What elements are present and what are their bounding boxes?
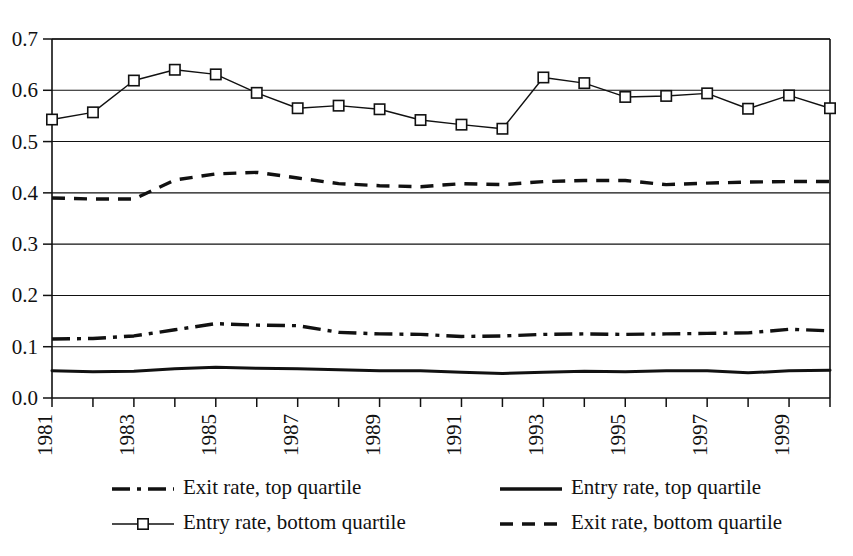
data-point-marker [292, 103, 302, 113]
y-tick-label: 0.7 [12, 27, 38, 51]
data-point-marker [743, 104, 753, 114]
data-point-marker [47, 114, 57, 124]
data-point-marker [333, 100, 343, 110]
data-point-marker [415, 115, 425, 125]
y-tick-label: 0.3 [12, 232, 38, 256]
data-point-marker [784, 90, 794, 100]
x-tick-label: 1995 [606, 414, 630, 456]
data-point-marker [374, 104, 384, 114]
x-tick-label: 1981 [33, 414, 57, 456]
data-point-marker [702, 88, 712, 98]
data-point-marker [129, 75, 139, 85]
y-tick-label: 0.6 [12, 78, 38, 102]
legend-label: Entry rate, top quartile [571, 475, 761, 499]
legend-swatch-marker [138, 519, 148, 529]
x-tick-label: 1997 [688, 414, 712, 456]
chart-container: 0.00.10.20.30.40.50.60.7 198119831985198… [0, 0, 853, 556]
data-point-marker [825, 103, 835, 113]
data-point-marker [579, 78, 589, 88]
data-point-marker [497, 124, 507, 134]
x-tick-label: 1993 [524, 414, 548, 456]
x-tick-label: 1987 [279, 414, 303, 456]
x-tick-label: 1991 [442, 414, 466, 456]
data-point-marker [620, 92, 630, 102]
data-point-marker [538, 72, 548, 82]
data-point-marker [170, 65, 180, 75]
x-tick-label: 1985 [197, 414, 221, 456]
data-point-marker [252, 88, 262, 98]
x-tick-label: 1989 [361, 414, 385, 456]
legend-label: Exit rate, top quartile [183, 475, 361, 499]
legend-label: Exit rate, bottom quartile [571, 510, 782, 534]
data-point-marker [661, 91, 671, 101]
y-tick-label: 0.2 [12, 283, 38, 307]
y-tick-label: 0.0 [12, 386, 38, 410]
y-tick-label: 0.5 [12, 130, 38, 154]
data-point-marker [211, 69, 221, 79]
data-point-marker [88, 107, 98, 117]
y-tick-label: 0.1 [12, 335, 38, 359]
legend-label: Entry rate, bottom quartile [183, 510, 406, 534]
line-chart: 0.00.10.20.30.40.50.60.7 198119831985198… [0, 0, 853, 556]
data-point-marker [456, 119, 466, 129]
x-tick-label: 1999 [770, 414, 794, 456]
y-tick-label: 0.4 [12, 181, 39, 205]
x-tick-label: 1983 [115, 414, 139, 456]
